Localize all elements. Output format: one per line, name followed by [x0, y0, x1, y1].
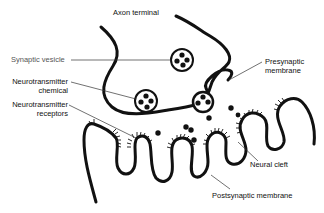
- label-postsynaptic-membrane: Postsynaptic membrane: [212, 191, 292, 200]
- synapse-diagram: Axon terminal Synaptic vesicle Neurotran…: [0, 0, 324, 213]
- label-synaptic-vesicle: Synaptic vesicle: [11, 55, 65, 64]
- label-neurotransmitter-receptors: Neurotransmitter receptors: [10, 100, 68, 118]
- label-line: Neurotransmitter: [10, 77, 68, 86]
- label-line: chemical: [10, 86, 68, 95]
- label-axon-terminal: Axon terminal: [113, 8, 159, 17]
- label-line: Neurotransmitter: [10, 100, 68, 109]
- label-neurotransmitter-chemical: Neurotransmitter chemical: [10, 77, 68, 95]
- synaptic-vesicles: [135, 49, 213, 112]
- label-line: receptors: [10, 109, 68, 118]
- label-line: membrane: [265, 66, 304, 75]
- label-neural-cleft: Neural cleft: [250, 160, 288, 169]
- label-line: Presynaptic: [265, 57, 304, 66]
- label-presynaptic-membrane: Presynaptic membrane: [265, 57, 304, 75]
- postsynaptic-membrane-shape: [84, 99, 314, 202]
- vesicle-1: [171, 49, 193, 71]
